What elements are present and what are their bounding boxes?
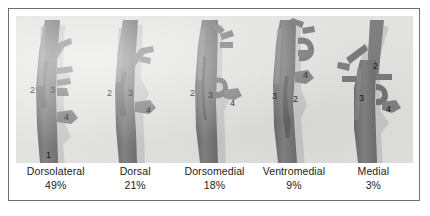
vessel-label-2: 2 — [30, 85, 35, 95]
vessel-diagram-ventromedial: 3 2 4 — [256, 16, 336, 163]
vessel-label-4: 4 — [230, 98, 235, 108]
caption-row: Dorsolateral 49% Dorsal 21% Dorsomedial … — [16, 165, 413, 201]
vessel-label-4: 4 — [303, 70, 308, 80]
vessel-label-2: 2 — [293, 94, 298, 104]
vessel-label-1: 1 — [46, 150, 51, 160]
vessel-label-4: 4 — [386, 104, 391, 114]
caption-ventromedial: Ventromedial 9% — [254, 165, 333, 201]
vessel-diagram-dorsomedial: 2 3 4 — [176, 16, 256, 163]
vessel-label-3: 3 — [208, 90, 213, 100]
caption-name: Medial — [334, 165, 413, 178]
caption-percent: 3% — [334, 178, 413, 192]
caption-dorsal: Dorsal 21% — [95, 165, 174, 201]
caption-percent: 49% — [16, 178, 95, 192]
vessel-label-4: 4 — [64, 112, 69, 122]
caption-medial: Medial 3% — [334, 165, 413, 201]
caption-percent: 18% — [175, 178, 254, 192]
vessel-label-3: 3 — [50, 85, 55, 95]
vessel-diagram-dorsal: 2 3 4 — [96, 16, 176, 163]
vessel-label-2: 2 — [190, 88, 195, 98]
vessel-label-3: 3 — [272, 91, 277, 101]
caption-name: Dorsolateral — [16, 165, 95, 178]
vessel-main — [36, 20, 78, 163]
caption-dorsolateral: Dorsolateral 49% — [16, 165, 95, 201]
vessel-label-2: 2 — [107, 88, 112, 98]
vessel-diagram-dorsolateral: 2 3 4 1 — [16, 16, 96, 163]
caption-name: Dorsal — [95, 165, 174, 178]
vessel-label-3: 3 — [128, 88, 133, 98]
vessel-diagram-medial: 2 3 4 — [336, 16, 413, 163]
figure-frame: 2 3 4 1 — [8, 8, 420, 201]
vessel-main — [337, 20, 401, 163]
caption-dorsomedial: Dorsomedial 18% — [175, 165, 254, 201]
vessel-label-3: 3 — [359, 93, 364, 103]
caption-percent: 21% — [95, 178, 174, 192]
vessel-label-4: 4 — [146, 105, 151, 115]
caption-percent: 9% — [254, 178, 333, 192]
caption-name: Ventromedial — [254, 165, 333, 178]
vessel-label-2: 2 — [373, 61, 378, 71]
caption-name: Dorsomedial — [175, 165, 254, 178]
illustration-strip: 2 3 4 1 — [16, 16, 413, 163]
